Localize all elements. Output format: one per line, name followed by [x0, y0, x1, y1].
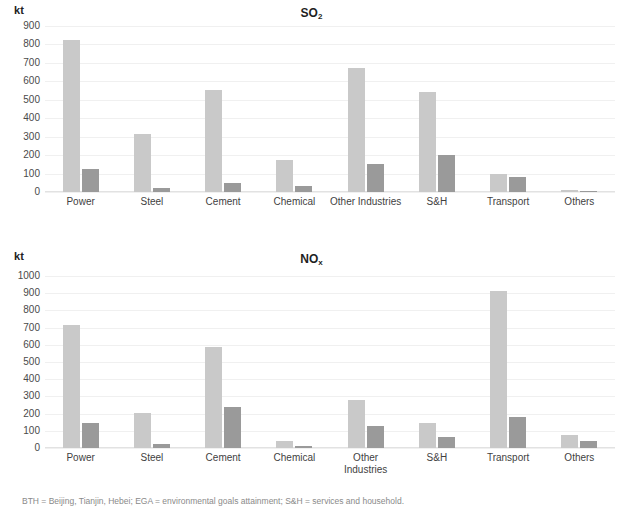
x-tick-label: Chemical: [259, 452, 330, 476]
y-tick-label-200: 200: [0, 150, 40, 160]
bar[interactable]: [205, 90, 222, 192]
x-tick-label: Others: [544, 196, 615, 208]
bar[interactable]: [276, 160, 293, 192]
bar[interactable]: [348, 400, 365, 448]
bar-group: [259, 26, 330, 192]
x-tick-label: Other Industries: [330, 452, 401, 476]
x-tick-label: Power: [45, 196, 116, 208]
x-tick-label: Cement: [188, 196, 259, 208]
y-tick-label-300: 300: [0, 391, 40, 401]
bar[interactable]: [509, 417, 526, 448]
bar-group: [544, 276, 615, 448]
chart-title-so2: SO2: [0, 6, 623, 20]
bar[interactable]: [134, 134, 151, 192]
y-axis-labels-nox: 10009008007006005004003002001000: [0, 276, 40, 448]
chart-title-so2-subscript: 2: [318, 12, 322, 21]
bar[interactable]: [367, 426, 384, 448]
bar[interactable]: [348, 68, 365, 192]
y-tick-label-400: 400: [0, 113, 40, 123]
y-tick-label-200: 200: [0, 409, 40, 419]
bar[interactable]: [224, 183, 241, 192]
bar-group: [401, 276, 472, 448]
bar[interactable]: [490, 291, 507, 448]
y-tick-label-700: 700: [0, 323, 40, 333]
figure-footnote: BTH = Beijing, Tianjin, Hebei; EGA = env…: [22, 496, 612, 507]
y-tick-label-800: 800: [0, 39, 40, 49]
bar-group: [473, 276, 544, 448]
bar[interactable]: [82, 169, 99, 192]
bar-group: [330, 276, 401, 448]
bar[interactable]: [276, 441, 293, 448]
bar-group: [473, 26, 544, 192]
bar-group: [330, 26, 401, 192]
x-tick-label: Others: [544, 452, 615, 476]
y-tick-label-0: 0: [0, 187, 40, 197]
y-tick-label-900: 900: [0, 21, 40, 31]
y-tick-label-100: 100: [0, 426, 40, 436]
bar[interactable]: [561, 435, 578, 448]
x-tick-label: Other Industries: [330, 196, 401, 208]
x-axis-labels-so2: PowerSteelCementChemicalOther Industries…: [45, 196, 615, 208]
y-tick-label-0: 0: [0, 443, 40, 453]
bar[interactable]: [63, 40, 80, 192]
y-tick-label-700: 700: [0, 58, 40, 68]
y-tick-label-500: 500: [0, 95, 40, 105]
bar-group: [116, 276, 187, 448]
x-tick-label: Chemical: [259, 196, 330, 208]
y-tick-label-600: 600: [0, 76, 40, 86]
bar-group: [259, 276, 330, 448]
y-tick-label-600: 600: [0, 340, 40, 350]
bar[interactable]: [153, 444, 170, 448]
bar[interactable]: [419, 92, 436, 192]
bar-group: [188, 276, 259, 448]
bar[interactable]: [490, 174, 507, 192]
chart-title-so2-main: SO: [301, 6, 318, 20]
bar-groups-nox: [45, 276, 615, 448]
y-tick-label-1000: 1000: [0, 271, 40, 281]
chart-panel-nox: kt NOx 10009008007006005004003002001000 …: [0, 246, 623, 489]
bar[interactable]: [153, 188, 170, 192]
x-tick-label: S&H: [401, 196, 472, 208]
y-tick-label-800: 800: [0, 305, 40, 315]
plot-area-so2: [45, 26, 615, 192]
bar[interactable]: [419, 423, 436, 448]
x-tick-label: Transport: [473, 196, 544, 208]
y-tick-label-300: 300: [0, 132, 40, 142]
x-tick-label: Cement: [188, 452, 259, 476]
x-tick-label: S&H: [401, 452, 472, 476]
bar[interactable]: [63, 325, 80, 448]
bar[interactable]: [580, 191, 597, 192]
x-axis-labels-nox: PowerSteelCementChemicalOther Industries…: [45, 452, 615, 476]
y-tick-label-100: 100: [0, 169, 40, 179]
y-tick-label-900: 900: [0, 288, 40, 298]
bar-group: [45, 26, 116, 192]
bar[interactable]: [134, 413, 151, 448]
bar[interactable]: [224, 407, 241, 448]
bar[interactable]: [82, 423, 99, 448]
gridline-0: [45, 448, 615, 449]
chart-panel-so2: kt SO2 9008007006005004003002001000 Powe…: [0, 0, 623, 246]
bar[interactable]: [561, 190, 578, 192]
chart-title-nox-main: NO: [300, 252, 318, 266]
bar[interactable]: [438, 155, 455, 192]
chart-title-nox-subscript: x: [318, 258, 322, 267]
bar[interactable]: [205, 347, 222, 448]
y-axis-labels-so2: 9008007006005004003002001000: [0, 26, 40, 192]
bar[interactable]: [295, 446, 312, 448]
y-tick-label-500: 500: [0, 357, 40, 367]
y-tick-label-400: 400: [0, 374, 40, 384]
bar-group: [544, 26, 615, 192]
bar[interactable]: [509, 177, 526, 192]
bar-group: [188, 26, 259, 192]
x-tick-label: Transport: [473, 452, 544, 476]
bar-group: [116, 26, 187, 192]
bar[interactable]: [295, 186, 312, 192]
x-tick-label: Steel: [116, 196, 187, 208]
plot-area-nox: [45, 276, 615, 448]
bar[interactable]: [367, 164, 384, 192]
bar-group: [45, 276, 116, 448]
bar[interactable]: [580, 441, 597, 448]
bar[interactable]: [438, 437, 455, 448]
bar-groups-so2: [45, 26, 615, 192]
bar-group: [401, 26, 472, 192]
